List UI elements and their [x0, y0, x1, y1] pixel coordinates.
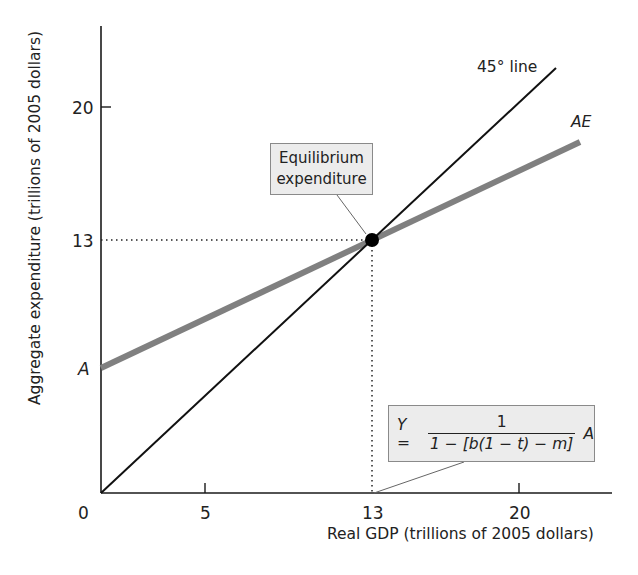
multiplier-formula-callout: Y = 1 1 − [b(1 − t) − m] A [388, 405, 595, 462]
equilibrium-point [365, 233, 379, 247]
x-tick-label-13: 13 [362, 505, 384, 522]
formula-fraction: 1 1 − [b(1 − t) − m] [428, 413, 575, 454]
y-axis-label: Aggregate expenditure (trillions of 2005… [26, 31, 44, 405]
chart-plot-area [0, 0, 638, 575]
y-tick-label-20: 20 [72, 100, 94, 117]
equilibrium-leader-line [337, 195, 366, 234]
forty-five-degree-line-label: 45° line [477, 58, 537, 76]
ae-line-label: AE [571, 113, 591, 131]
equilibrium-callout-line1: Equilibrium [271, 148, 372, 169]
x-tick-label-5: 5 [200, 505, 211, 522]
formula-lhs: Y = [397, 416, 420, 452]
equilibrium-callout-line2: expenditure [271, 169, 372, 190]
formula-numerator: 1 [495, 413, 509, 433]
formula-denominator: 1 − [b(1 − t) − m] [428, 433, 575, 454]
y-tick-label-13: 13 [72, 233, 94, 250]
formula-rhs: A [583, 425, 594, 443]
formula-leader-line [374, 462, 464, 493]
equilibrium-expenditure-callout: Equilibrium expenditure [270, 143, 373, 195]
aggregate-expenditure-chart: Aggregate expenditure (trillions of 2005… [0, 0, 638, 575]
y-tick-label-a: A [78, 361, 90, 378]
x-axis-label: Real GDP (trillions of 2005 dollars) [327, 525, 594, 543]
x-tick-label-20: 20 [509, 505, 531, 522]
origin-label: 0 [78, 505, 89, 522]
